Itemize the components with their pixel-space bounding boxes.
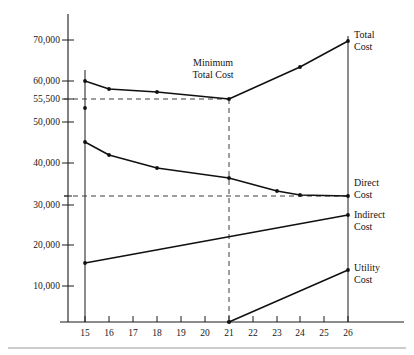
series-label-direct-cost: Direct Cost	[354, 177, 379, 200]
series-label-total-cost-line1: Total	[354, 29, 374, 41]
x-tick-label-18: 18	[147, 328, 167, 338]
y-tick-label-55500: 55,500	[8, 94, 60, 104]
x-tick-label-20: 20	[195, 328, 215, 338]
series-line-direct-cost	[85, 142, 348, 196]
chart-plot-area	[0, 0, 414, 355]
annotation-minimum-total-cost-line1: Minimum	[176, 57, 250, 69]
cost-duration-chart: 70,000 60,000 55,500 50,000 40,000 30,00…	[0, 0, 414, 355]
x-tick-label-24: 24	[290, 328, 310, 338]
series-label-direct-cost-line1: Direct	[354, 177, 379, 189]
series-label-direct-cost-line2: Cost	[354, 189, 379, 201]
x-tick-label-17: 17	[123, 328, 143, 338]
x-tick-label-19: 19	[171, 328, 191, 338]
x-tick-label-26: 26	[338, 328, 358, 338]
annotation-minimum-total-cost-line2: Total Cost	[176, 69, 250, 81]
x-tick-label-23: 23	[267, 328, 287, 338]
series-label-utility-cost-line2: Cost	[354, 274, 380, 286]
x-tick-label-25: 25	[314, 328, 334, 338]
annotation-minimum-total-cost: Minimum Total Cost	[176, 57, 250, 81]
y-tick-label-60000: 60,000	[8, 76, 60, 86]
y-tick-label-40000: 40,000	[8, 158, 60, 168]
y-tick-label-50000: 50,000	[8, 117, 60, 127]
point-crash-vertical-marker	[83, 106, 87, 110]
series-label-indirect-cost: Indirect Cost	[354, 209, 385, 232]
series-label-total-cost: Total Cost	[354, 29, 374, 52]
x-axis-ticks	[85, 316, 348, 322]
series-markers-direct-cost	[83, 140, 350, 198]
y-tick-label-70000: 70,000	[8, 35, 60, 45]
y-tick-label-30000: 30,000	[8, 200, 60, 210]
x-tick-label-21: 21	[219, 328, 239, 338]
x-tick-label-15: 15	[75, 328, 95, 338]
series-label-indirect-cost-line1: Indirect	[354, 209, 385, 221]
y-tick-label-10000: 10,000	[8, 281, 60, 291]
y-tick-label-20000: 20,000	[8, 240, 60, 250]
series-label-utility-cost: Utility Cost	[354, 262, 380, 285]
x-tick-label-22: 22	[243, 328, 263, 338]
series-label-utility-cost-line1: Utility	[354, 262, 380, 274]
series-line-indirect-cost	[85, 215, 348, 263]
series-line-utility-cost	[229, 270, 348, 322]
series-label-indirect-cost-line2: Cost	[354, 221, 385, 233]
series-label-total-cost-line2: Cost	[354, 41, 374, 53]
x-tick-label-16: 16	[99, 328, 119, 338]
